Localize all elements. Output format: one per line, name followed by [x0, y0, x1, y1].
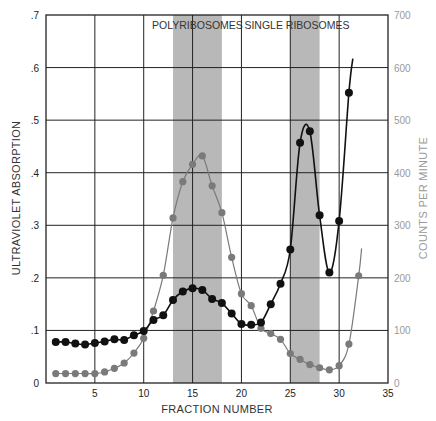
data-point [287, 350, 294, 357]
x-tick-label: 15 [187, 388, 199, 399]
y-tick-label: 0 [33, 378, 39, 389]
x-tick-label: 25 [285, 388, 297, 399]
data-point [286, 245, 294, 253]
data-point [120, 336, 128, 344]
data-point [355, 272, 362, 279]
data-point [267, 330, 274, 337]
x-tick-label: 20 [236, 388, 248, 399]
data-point [296, 356, 303, 363]
data-point [160, 272, 167, 279]
data-point [62, 338, 70, 346]
x-tick-label: 5 [92, 388, 98, 399]
data-point [169, 296, 177, 304]
data-point [62, 370, 69, 377]
data-point [325, 269, 333, 277]
y-axis-label: ULTRAVIOLET ABSORPTION [10, 121, 22, 276]
data-point [267, 300, 275, 308]
data-point [189, 161, 196, 168]
data-point [336, 362, 343, 369]
data-point [198, 286, 206, 294]
data-point [208, 295, 216, 303]
data-point [179, 288, 187, 296]
band-label: POLYRIBOSOMES [152, 19, 243, 31]
data-point [130, 331, 138, 339]
y2-tick-label: 400 [394, 168, 411, 179]
x-tick-label: 35 [382, 388, 394, 399]
x-tick-label: 10 [138, 388, 150, 399]
data-point [228, 254, 235, 261]
shaded-band [173, 15, 222, 383]
data-point [306, 361, 313, 368]
data-point [277, 280, 285, 288]
y2-tick-label: 300 [394, 220, 411, 231]
x-axis-ticks: 5101520253035 [92, 388, 394, 399]
y2-tick-label: 500 [394, 115, 411, 126]
data-point [140, 335, 147, 342]
data-point [159, 311, 167, 319]
data-point [326, 366, 333, 373]
data-point [228, 310, 236, 318]
y-tick-label: .4 [31, 168, 40, 179]
y-tick-label: .5 [31, 115, 40, 126]
data-point [81, 341, 89, 349]
data-point [345, 340, 352, 347]
y-tick-label: .7 [31, 10, 40, 21]
data-point [91, 370, 98, 377]
y2-tick-label: 200 [394, 273, 411, 284]
data-point [101, 337, 109, 345]
y2-tick-label: 0 [394, 378, 400, 389]
data-point [306, 127, 314, 135]
y-tick-label: .3 [31, 220, 40, 231]
data-point [110, 335, 118, 343]
data-point [72, 370, 79, 377]
y2-tick-label: 600 [394, 63, 411, 74]
data-point [218, 299, 226, 307]
data-point [189, 284, 197, 292]
shaded-regions [173, 15, 320, 383]
data-point [179, 178, 186, 185]
data-point [169, 214, 176, 221]
y-tick-label: .6 [31, 63, 40, 74]
data-point [335, 217, 343, 225]
data-point [149, 316, 157, 324]
data-point [237, 320, 245, 328]
band-labels: POLYRIBOSOMESSINGLE RIBOSOMES [152, 19, 349, 31]
y-tick-label: .1 [31, 325, 40, 336]
x-axis-label: FRACTION NUMBER [161, 403, 272, 415]
data-point [130, 349, 137, 356]
data-point [140, 327, 148, 335]
data-point [248, 302, 255, 309]
data-point [101, 368, 108, 375]
data-point [218, 209, 225, 216]
data-point [71, 340, 79, 348]
data-point [296, 139, 304, 147]
y2-axis-ticks: 0100200300400500600700 [394, 10, 411, 389]
data-point [81, 370, 88, 377]
data-point [52, 370, 59, 377]
data-point [150, 307, 157, 314]
y2-tick-label: 100 [394, 325, 411, 336]
data-point [238, 290, 245, 297]
data-point [257, 319, 265, 327]
data-point [121, 359, 128, 366]
y2-axis-label: COUNTS PER MINUTE [417, 137, 429, 259]
data-point [91, 339, 99, 347]
y-tick-label: .2 [31, 273, 40, 284]
data-point [316, 211, 324, 219]
data-point [111, 365, 118, 372]
data-point [199, 152, 206, 159]
data-point [277, 336, 284, 343]
band-label: SINGLE RIBOSOMES [244, 19, 349, 31]
x-tick-label: 30 [334, 388, 346, 399]
data-point [52, 338, 60, 346]
data-point [247, 321, 255, 329]
chart: POLYRIBOSOMESSINGLE RIBOSOMES 5101520253… [0, 0, 436, 421]
data-point [345, 89, 353, 97]
data-point [316, 364, 323, 371]
y-axis-ticks: 0.1.2.3.4.5.6.7 [31, 10, 40, 389]
y2-tick-label: 700 [394, 10, 411, 21]
data-point [209, 182, 216, 189]
